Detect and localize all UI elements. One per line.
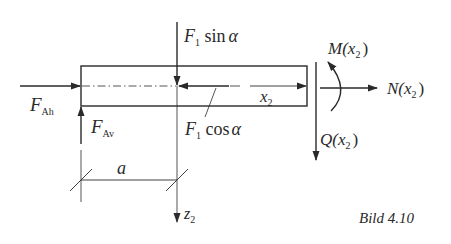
moment-arc-arrow bbox=[328, 62, 341, 111]
label-f-ah: FAh bbox=[29, 94, 54, 117]
label-f-av: FAv bbox=[90, 116, 114, 139]
label-f1-sin-alpha: F1 sinα bbox=[183, 26, 239, 48]
label-dimension-a: a bbox=[117, 158, 126, 178]
label-x2: x2 bbox=[259, 87, 273, 108]
figure-caption: Bild 4.10 bbox=[359, 210, 414, 226]
label-shear-force: Q(x2) bbox=[320, 130, 358, 151]
label-f1-cos-alpha: F1 cosα bbox=[184, 119, 242, 141]
label-z2: z2 bbox=[183, 205, 195, 225]
force-f1-cos-leader bbox=[205, 88, 216, 117]
beam-free-body-diagram: FAh FAv F1 sinα F1 cosα x2 M(x2) N(x2) Q… bbox=[0, 0, 451, 244]
label-moment: M(x2) bbox=[327, 39, 368, 60]
label-normal-force: N(x2) bbox=[386, 79, 424, 100]
